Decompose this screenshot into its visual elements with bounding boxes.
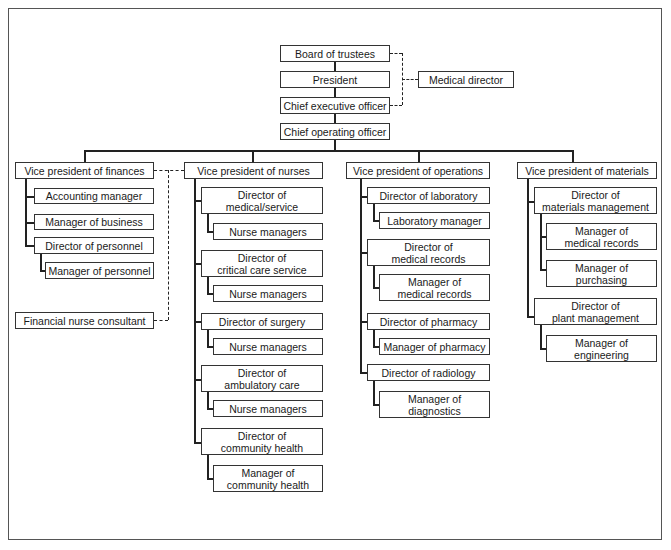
connector-nm4 [207, 392, 209, 409]
connector-nur-2 [194, 263, 201, 265]
node-financial-nurse-consultant: Financial nurse consultant [15, 312, 154, 329]
node-nurse-managers-4: Nurse managers [213, 400, 323, 417]
node-coo: Chief operating officer [280, 123, 390, 140]
connector-fin-3 [25, 245, 34, 247]
connector-pharmacy [373, 330, 375, 347]
connector-bus-operations [418, 150, 420, 162]
connector-nm3 [207, 330, 209, 347]
connector-nm1 [207, 214, 209, 232]
connector-fin-1 [25, 196, 34, 198]
node-director-surgery: Director of surgery [201, 313, 323, 330]
node-nurse-managers-2: Nurse managers [213, 285, 323, 302]
connector-bus-materials [572, 150, 574, 162]
connector-nur-3 [194, 321, 201, 323]
node-manager-medical-records-mat: Manager of medical records [546, 223, 657, 250]
dotted-link-medical-director [402, 79, 418, 80]
connector-radiology [373, 381, 375, 405]
node-nurse-managers-3: Nurse managers [213, 338, 323, 355]
node-manager-of-business: Manager of business [34, 214, 154, 230]
node-laboratory-manager: Laboratory manager [379, 212, 490, 229]
connector-bus-nurses [252, 150, 254, 162]
dotted-link-consultant-vertical [168, 170, 169, 320]
connector-nur-5 [194, 442, 201, 444]
dotted-link-board [390, 53, 402, 54]
node-accounting-manager: Accounting manager [34, 188, 154, 204]
node-director-community-health: Director of community health [201, 428, 323, 455]
connector-fin-2 [25, 222, 34, 224]
connector-community [207, 455, 209, 479]
connector-operations-spine [360, 179, 362, 373]
node-medical-director: Medical director [418, 71, 514, 88]
connector-vp-bus [84, 150, 573, 152]
connector-ops-2 [360, 252, 367, 254]
node-director-plant-management: Director of plant management [534, 298, 657, 325]
node-nurse-managers-1: Nurse managers [213, 223, 323, 240]
connector-lab [373, 204, 375, 221]
node-manager-community-health: Manager of community health [213, 465, 323, 492]
connector-ops-1 [360, 196, 367, 198]
node-director-laboratory: Director of laboratory [367, 187, 490, 204]
connector-materials-children [540, 214, 542, 270]
node-manager-diagnostics: Manager of diagnostics [379, 391, 490, 418]
connector-plant [540, 325, 542, 349]
node-board-of-trustees: Board of trustees [280, 45, 390, 62]
node-president: President [280, 71, 390, 88]
node-manager-of-personnel: Manager of personnel [45, 262, 154, 279]
node-vp-operations: Vice president of operations [346, 162, 490, 179]
connector-mat-2 [527, 316, 534, 318]
node-director-radiology: Director of radiology [367, 364, 490, 381]
connector-ops-3 [360, 321, 367, 323]
node-director-critical-care: Director of critical care service [201, 250, 323, 277]
node-director-materials-management: Director of materials management [534, 187, 657, 214]
node-manager-engineering: Manager of engineering [546, 335, 657, 362]
connector-records [373, 266, 375, 288]
connector-personnel [40, 254, 42, 270]
node-vp-materials: Vice president of materials [517, 162, 657, 179]
dotted-link-ceo [390, 105, 402, 106]
node-director-medical-service: Director of medical/service [201, 187, 323, 214]
node-vp-nurses: Vice president of nurses [184, 162, 323, 179]
dotted-link-consultant [154, 320, 168, 321]
node-director-medical-records: Director of medical records [367, 239, 490, 266]
node-director-ambulatory-care: Director of ambulatory care [201, 365, 323, 392]
node-ceo: Chief executive officer [280, 97, 390, 114]
connector-materials-spine [527, 179, 529, 317]
node-manager-pharmacy: Manager of pharmacy [379, 338, 490, 355]
node-manager-medical-records-ops: Manager of medical records [379, 274, 490, 301]
connector-finances-spine [25, 179, 27, 246]
connector-mat-1 [527, 201, 534, 203]
connector-ops-4 [360, 372, 367, 374]
node-director-of-personnel: Director of personnel [34, 237, 154, 254]
node-director-pharmacy: Director of pharmacy [367, 313, 490, 330]
dotted-link-vp-fin-nurses [154, 170, 184, 171]
connector-nur-4 [194, 379, 201, 381]
connector-coo-bus [334, 140, 336, 150]
node-manager-purchasing: Manager of purchasing [546, 260, 657, 287]
connector-nm2 [207, 277, 209, 294]
connector-nur-1 [194, 200, 201, 202]
connector-bus-finances [84, 150, 86, 162]
node-vp-finances: Vice president of finances [15, 162, 154, 179]
connector-nurses-spine [194, 179, 196, 443]
